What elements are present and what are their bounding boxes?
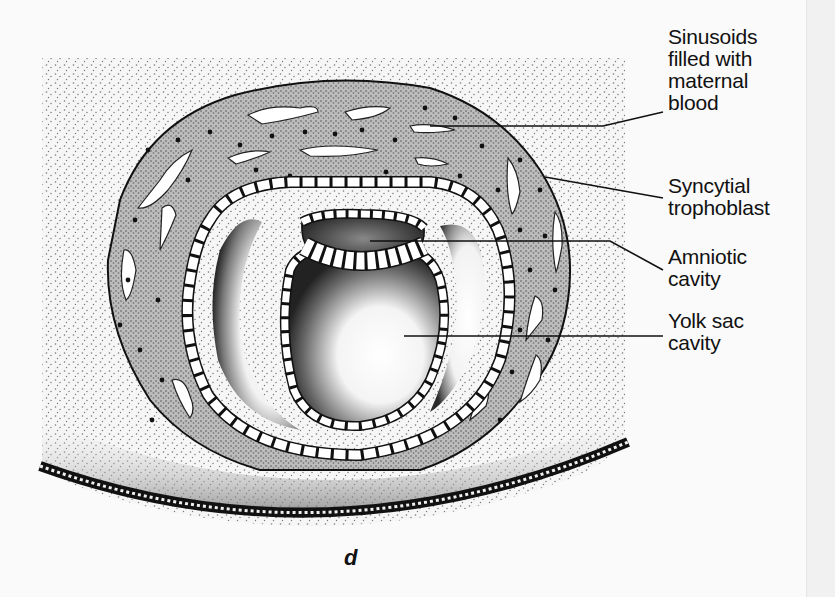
amniotic-cavity	[302, 214, 424, 264]
label-line: cavity	[668, 268, 747, 290]
figure-caption: d	[344, 545, 357, 571]
label-sinusoids: Sinusoids filled with maternal blood	[668, 26, 757, 114]
label-syncytial-trophoblast: Syncytial trophoblast	[668, 175, 770, 219]
label-yolk-sac-cavity: Yolk sac cavity	[668, 310, 744, 354]
label-line: trophoblast	[668, 197, 770, 219]
label-line: cavity	[668, 332, 744, 354]
label-line: filled with	[668, 48, 757, 70]
label-line: Amniotic	[668, 246, 747, 268]
label-line: maternal	[668, 70, 757, 92]
yolk-sac	[285, 248, 444, 426]
label-line: Syncytial	[668, 175, 770, 197]
label-amniotic-cavity: Amniotic cavity	[668, 246, 747, 290]
label-line: blood	[668, 92, 757, 114]
label-line: Yolk sac	[668, 310, 744, 332]
label-line: Sinusoids	[668, 26, 757, 48]
